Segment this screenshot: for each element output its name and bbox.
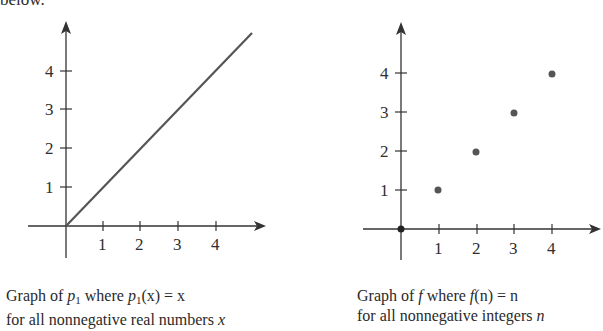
left-caption-line2: for all nonnegative real numbers x [6, 310, 225, 330]
svg-text:2: 2 [472, 239, 481, 258]
chart-p1-line: 1 2 3 4 1 2 3 4 1 2 [0, 0, 603, 331]
right-graph [363, 22, 601, 260]
svg-text:3: 3 [173, 235, 182, 254]
p1-line [66, 33, 252, 226]
svg-text:1: 1 [380, 181, 389, 200]
svg-text:2: 2 [45, 139, 54, 158]
svg-text:4: 4 [45, 62, 54, 81]
svg-text:4: 4 [547, 239, 556, 258]
data-point [398, 226, 405, 233]
svg-text:2: 2 [135, 235, 144, 254]
left-caption-line1: Graph of p1 where p1(x) = x [6, 286, 225, 310]
f-points [398, 71, 556, 233]
data-point [511, 110, 518, 117]
data-point [435, 187, 442, 194]
data-point [473, 149, 480, 156]
svg-text:1: 1 [98, 235, 107, 254]
svg-text:3: 3 [380, 103, 389, 122]
right-caption: Graph of f where f(n) = n for all nonneg… [357, 286, 545, 326]
data-point [549, 71, 556, 78]
svg-text:4: 4 [380, 64, 389, 83]
right-caption-line2: for all nonnegative integers n [357, 306, 545, 326]
left-caption: Graph of p1 where p1(x) = x for all nonn… [6, 286, 225, 330]
svg-text:3: 3 [509, 239, 518, 258]
svg-text:3: 3 [45, 100, 54, 119]
svg-text:1: 1 [45, 178, 54, 197]
svg-text:2: 2 [380, 142, 389, 161]
left-graph [28, 21, 266, 258]
svg-text:1: 1 [434, 239, 443, 258]
right-caption-line1: Graph of f where f(n) = n [357, 286, 545, 306]
svg-text:4: 4 [211, 235, 220, 254]
